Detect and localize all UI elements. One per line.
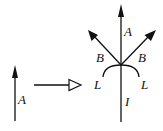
arc-right-label: L: [140, 77, 148, 92]
diagram-canvas: A A B B L L I: [0, 0, 163, 131]
left-branch-label: B: [96, 50, 104, 65]
input-arrow-label: A: [17, 92, 26, 107]
right-branch-label: B: [138, 50, 146, 65]
up-arrow-label: A: [123, 24, 132, 39]
transition-arrow: [34, 80, 81, 91]
arc-left-label: L: [93, 77, 101, 92]
stem-label: I: [124, 94, 130, 109]
